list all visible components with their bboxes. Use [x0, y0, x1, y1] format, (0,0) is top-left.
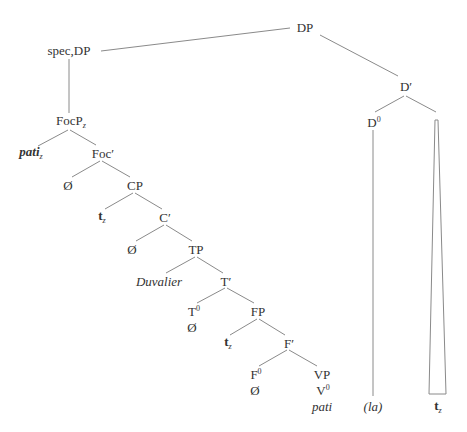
- edge-foc-bar-null: [72, 161, 100, 177]
- node-superscript: 0: [258, 367, 262, 376]
- edge-cp-t: [105, 193, 133, 209]
- node-vp: VP: [314, 368, 331, 381]
- edge-dp-spec-dp: [101, 28, 290, 51]
- node-focp: FocPz: [56, 114, 86, 130]
- node-spec-dp: spec,DP: [48, 44, 91, 57]
- node-v0: V0: [316, 384, 329, 397]
- node-fp: FP: [251, 305, 265, 318]
- node-label: (la): [364, 399, 383, 414]
- node-null-t: Ø: [187, 321, 196, 334]
- node-f0: F0: [250, 368, 261, 381]
- node-pati-z: patiz: [19, 145, 42, 161]
- edge-t-bar-fp: [227, 288, 254, 303]
- edge-f-bar-vp: [289, 350, 317, 366]
- node-label: F′: [284, 336, 294, 351]
- node-d-bar: D′: [400, 80, 412, 93]
- node-null-c: Ø: [127, 243, 136, 256]
- node-label: pati: [19, 144, 39, 159]
- node-label: TP: [188, 242, 203, 257]
- syntax-tree-lines: [0, 0, 467, 432]
- node-label: Ø: [127, 242, 136, 257]
- node-label: D: [367, 115, 376, 130]
- node-label: D′: [400, 79, 412, 94]
- edge-c-bar-tp: [166, 225, 192, 241]
- node-subscript: z: [229, 342, 232, 351]
- node-t-bar: T′: [221, 275, 232, 288]
- node-subscript: z: [83, 121, 86, 130]
- node-null-foc: Ø: [63, 179, 72, 192]
- node-subscript: z: [103, 216, 106, 225]
- node-label: Duvalier: [136, 274, 182, 289]
- node-c-bar: C′: [159, 211, 171, 224]
- node-foc-bar: Foc′: [92, 147, 114, 160]
- node-superscript: 0: [377, 115, 381, 124]
- edge-c-bar-null: [136, 225, 164, 241]
- edge-tp-duvalier: [166, 257, 195, 273]
- node-cp: CP: [127, 179, 143, 192]
- edge-fp-f-bar: [259, 319, 285, 335]
- node-t0: T0: [188, 305, 200, 318]
- node-label: DP: [297, 20, 314, 35]
- edge-t-bar-t0: [197, 288, 225, 303]
- node-label: FocP: [56, 113, 83, 128]
- edge-f-bar-f0: [259, 350, 287, 366]
- node-f-bar: F′: [284, 337, 294, 350]
- node-label: VP: [314, 367, 331, 382]
- node-duvalier: Duvalier: [136, 275, 182, 288]
- node-superscript: 0: [196, 304, 200, 313]
- edge-foc-bar-cp: [102, 161, 130, 177]
- edge-fp-t: [230, 319, 257, 335]
- edge-dp-d-bar: [320, 35, 398, 76]
- node-label: pati: [312, 399, 332, 414]
- node-tp: TP: [188, 243, 203, 256]
- node-label: Ø: [187, 320, 196, 335]
- node-label: spec,DP: [48, 43, 91, 58]
- edge-d-bar-d0: [375, 96, 404, 112]
- edge-focp-pati: [38, 130, 68, 146]
- triangle-abbreviation: [429, 120, 446, 394]
- node-label: Foc′: [92, 146, 114, 161]
- node-pati: pati: [312, 400, 332, 413]
- node-t-z-fp: tz: [224, 335, 231, 351]
- edge-cp-c-bar: [135, 193, 162, 209]
- edge-d-bar-triangle: [406, 96, 436, 112]
- node-null-f: Ø: [250, 384, 259, 397]
- node-label: T: [188, 304, 196, 319]
- edge-focp-foc-bar: [70, 130, 96, 145]
- node-d0: D0: [367, 116, 380, 129]
- node-label: Ø: [250, 383, 259, 398]
- node-dp: DP: [297, 21, 314, 34]
- node-subscript: z: [40, 152, 43, 161]
- node-subscript: z: [439, 406, 442, 415]
- node-label: FP: [251, 304, 265, 319]
- node-label: C′: [159, 210, 171, 225]
- node-label: Ø: [63, 178, 72, 193]
- node-la: (la): [364, 400, 383, 413]
- node-label: CP: [127, 178, 143, 193]
- node-label: T′: [221, 274, 232, 289]
- node-t-z-np: tz: [434, 399, 441, 415]
- node-superscript: 0: [326, 383, 330, 392]
- edge-tp-t-bar: [197, 257, 223, 273]
- node-label: V: [316, 383, 325, 398]
- node-t-z-cp: tz: [98, 209, 105, 225]
